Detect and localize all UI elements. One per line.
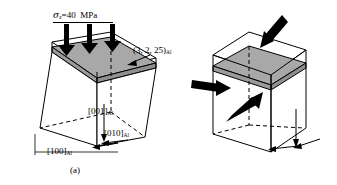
stress-unit: MPa — [80, 10, 97, 20]
direction-text: [010] — [104, 128, 124, 138]
plane-label-text: (3, 2, 25) — [133, 45, 166, 55]
panel-a-drawing — [0, 0, 170, 185]
direction-label-001-al-a: [001]Al — [88, 107, 113, 116]
stress-value: =40 — [62, 10, 76, 20]
direction-subscript: Al — [124, 132, 130, 138]
stress-label: σz=40 MPa — [53, 11, 97, 20]
direction-subscript: Al — [108, 110, 114, 116]
load-arrow-100-md — [191, 80, 231, 96]
load-arrow-010-md — [226, 92, 263, 122]
panel-b-drawing — [170, 0, 337, 185]
panel-a: σz=40 MPa (3, 2, 25)Al [001]Al [010]Al [… — [0, 0, 170, 185]
direction-label-010-al-a: [010]Al — [104, 129, 129, 138]
direction-label-100-al-a: [100]Al — [47, 147, 72, 156]
stress-underline — [53, 22, 113, 23]
plane-label-3-2-25: (3, 2, 25)Al — [133, 46, 172, 55]
direction-subscript: Al — [67, 150, 73, 156]
direction-text: [001] — [88, 106, 108, 116]
hidden-edge-back-left — [213, 125, 249, 134]
panel-a-caption: (a) — [70, 165, 80, 175]
panel-b: [001]MD [100]MD [010]MD [001]Al [010]Al … — [170, 0, 337, 185]
direction-text: [100] — [47, 146, 67, 156]
figure-container: σz=40 MPa (3, 2, 25)Al [001]Al [010]Al [… — [0, 0, 337, 185]
